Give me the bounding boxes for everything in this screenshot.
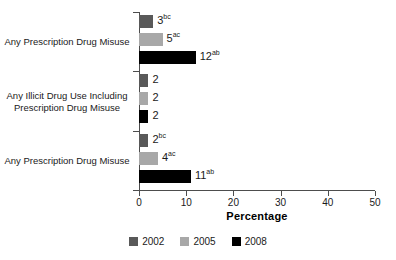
value-axis-tick	[139, 191, 140, 196]
bar-value-label: 11ab	[195, 169, 214, 182]
bar-value-label: 2bc	[152, 133, 166, 146]
bar-value-label: 2	[152, 91, 158, 104]
bar-2002	[139, 134, 148, 147]
value-axis-tick	[186, 191, 187, 196]
bar-value-label: 12ab	[200, 50, 220, 63]
bar-2005	[139, 92, 148, 105]
category-label-line: Prescription Drug Misuse	[1, 101, 133, 113]
value-axis-tick-label: 10	[181, 197, 192, 209]
bar-value-label: 2	[152, 73, 158, 86]
bar-value-label: 4ac	[162, 151, 176, 164]
value-axis-tick-label: 20	[228, 197, 239, 209]
bar-chart: 01020304050 Percentage Any Prescription …	[0, 0, 396, 260]
category-label: Any Illicit Drug Use IncludingPrescripti…	[1, 90, 133, 113]
bar-2002	[139, 74, 148, 87]
value-axis-tick-label: 0	[136, 197, 142, 209]
value-axis-tick-label: 40	[322, 197, 333, 209]
value-axis-tick	[281, 191, 282, 196]
value-axis-tick	[233, 191, 234, 196]
bar-value-label: 3bc	[157, 14, 171, 27]
legend-swatch-icon	[180, 237, 189, 246]
legend-item-2005[interactable]: 2005	[180, 236, 215, 247]
bar-value-label: 5ac	[167, 32, 181, 45]
bar-2002	[139, 15, 153, 28]
legend-swatch-icon	[129, 237, 138, 246]
category-label: Any Prescription Drug Misuse	[1, 36, 133, 48]
legend: 200220052008	[0, 236, 396, 247]
category-label-line: Any Prescription Drug Misuse	[1, 155, 133, 167]
value-axis-line	[139, 190, 375, 191]
bar-value-label: 2	[152, 109, 158, 122]
legend-item-2002[interactable]: 2002	[129, 236, 164, 247]
legend-label: 2008	[245, 236, 267, 247]
bar-2008	[139, 51, 196, 64]
legend-item-2008[interactable]: 2008	[232, 236, 267, 247]
value-axis-tick	[375, 191, 376, 196]
category-label-line: Any Prescription Drug Misuse	[1, 36, 133, 48]
category-axis-tick	[133, 12, 139, 13]
bar-2005	[139, 152, 158, 165]
value-axis-tick	[328, 191, 329, 196]
bar-2005	[139, 33, 163, 46]
value-axis-title: Percentage	[139, 210, 375, 222]
value-axis-tick-label: 50	[369, 197, 380, 209]
category-axis-tick	[133, 71, 139, 72]
bar-2008	[139, 170, 191, 183]
category-label-line: Any Illicit Drug Use Including	[1, 90, 133, 102]
value-axis-tick-label: 30	[275, 197, 286, 209]
category-label: Any Prescription Drug Misuse	[1, 155, 133, 167]
legend-swatch-icon	[232, 237, 241, 246]
legend-label: 2005	[193, 236, 215, 247]
category-axis-tick	[133, 131, 139, 132]
legend-label: 2002	[142, 236, 164, 247]
bar-2008	[139, 110, 148, 123]
